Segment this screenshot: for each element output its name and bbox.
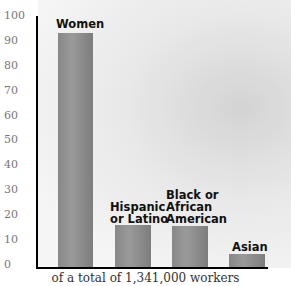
bar-asian [229,254,265,267]
label-asian: Asian [232,241,268,253]
y-tick: 50 [4,133,32,146]
y-tick: 90 [4,34,32,47]
y-tick: 40 [4,158,32,171]
y-tick: 100 [4,9,32,22]
y-tick: 30 [4,183,32,196]
x-axis-line [36,267,268,269]
y-tick: 70 [4,84,32,97]
y-tick: 80 [4,59,32,72]
label-hispanic-2: or Latino [110,213,168,225]
label-women: Women [56,18,104,30]
bar-women [58,33,93,267]
x-axis-caption: of a total of 1,341,000 workers [0,271,291,285]
bar-hispanic [115,225,151,267]
label-black-3: American [166,213,227,225]
y-tick: 10 [4,233,32,246]
y-axis-line [36,16,38,269]
y-tick: 60 [4,109,32,122]
bar-black [172,226,208,267]
y-tick: 20 [4,208,32,221]
y-tick: 0 [4,258,32,271]
